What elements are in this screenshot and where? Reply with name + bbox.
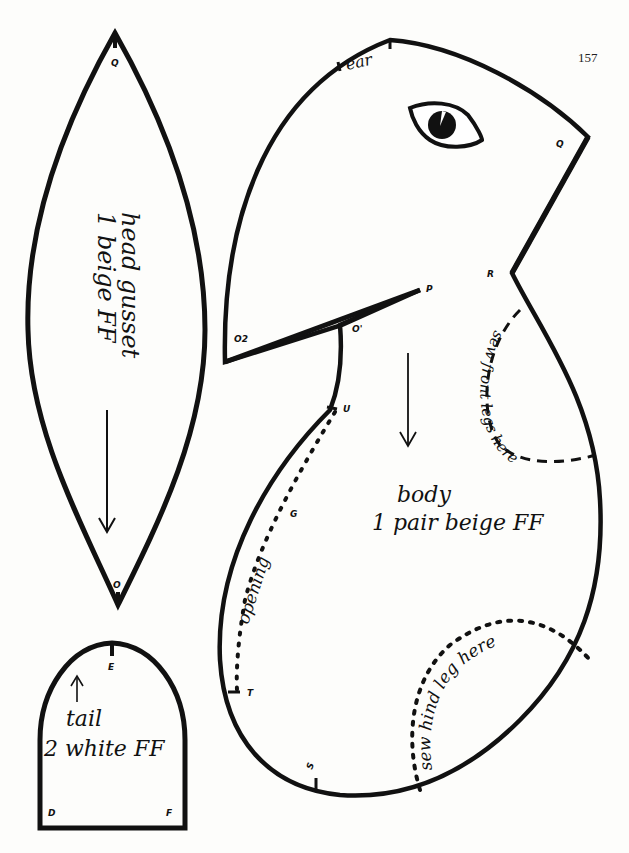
point-label-o2: O2 [234,334,248,344]
tail-title: tail [66,706,102,731]
grainline-arrow-icon [71,676,83,702]
point-label-p: P [426,284,433,294]
point-label-r: R [487,269,494,279]
grainline-arrow-icon [99,410,115,532]
tail-piece: E D F tail 2 white FF [40,643,185,828]
point-label-u: U [343,404,351,414]
ear-mark-label: ear [344,50,375,74]
point-label-q: Q [556,139,564,149]
body-title: body [397,482,451,507]
point-label-g: G [290,509,297,519]
opening-label: opening [233,554,274,626]
head-gusset-instruction: 1 beige FF [92,212,120,344]
eye-marking-icon [410,103,482,147]
point-label-q: Q [111,58,119,68]
tail-instruction: 2 white FF [43,736,165,761]
point-label-e: E [108,662,115,672]
body-piece: ear Q R P O' O2 U G T S opening body 1 p… [220,40,601,796]
point-label-s: S [304,761,316,771]
point-label-o1: O' [352,324,362,334]
front-legs-label: sew front legs here [476,328,522,467]
point-label-t: T [247,688,254,698]
point-label-o: O [113,580,121,590]
body-instruction: 1 pair beige FF [372,510,544,535]
opening-stitch-line [237,412,335,690]
grainline-arrow-icon [400,353,416,446]
point-label-f: F [166,808,173,818]
head-gusset-piece: Q O head gusset 1 beige FF [28,33,205,605]
page-number: 157 [578,50,598,65]
pattern-sheet: 157 Q O head gusset 1 beige FF E D F tai… [0,0,629,853]
point-label-d: D [48,808,56,818]
